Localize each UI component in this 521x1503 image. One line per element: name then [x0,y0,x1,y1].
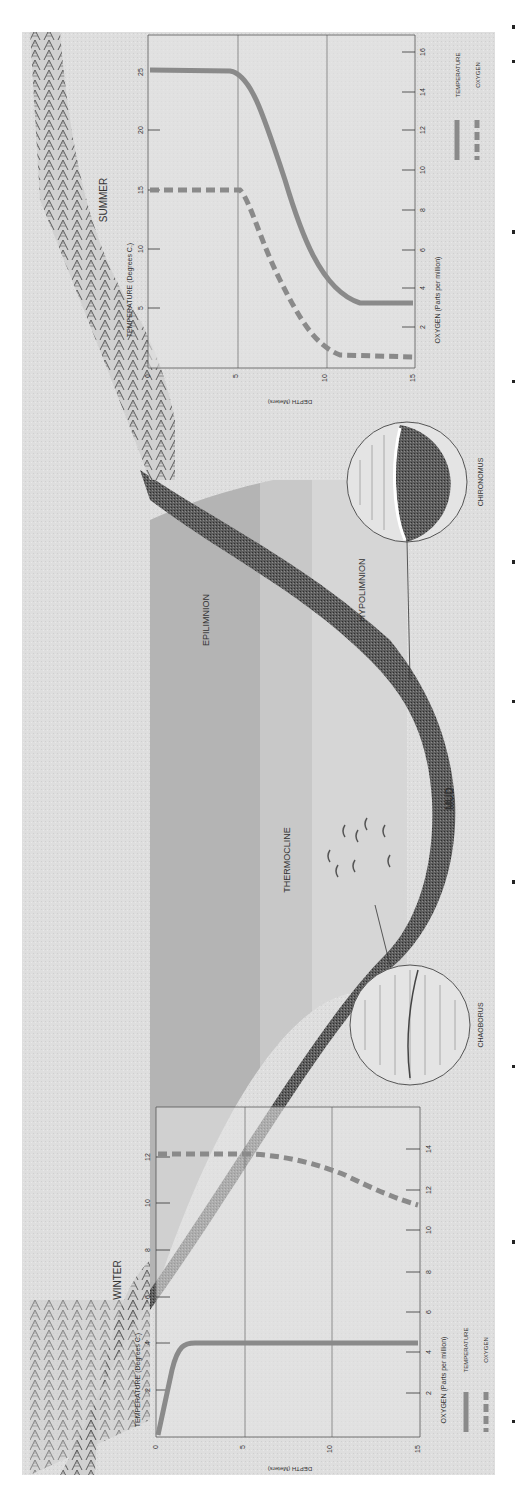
summer-temp-axis-label: TEMPERATURE (Degrees C.) [126,243,134,337]
lake-stratification-figure: MUD EPILIMNION THERMOCLINE HYPOLIMNION C… [0,0,521,1503]
winter-depth-tick: 5 [239,1445,246,1449]
legend-temperature-label: TEMPERATURE [463,1328,469,1373]
summer-temp-tick: 5 [137,306,144,310]
winter-depth-axis-label: DEPTH (Meters) [268,1466,312,1472]
winter-temp-tick: 8 [144,1248,151,1252]
winter-depth-tick: 0 [152,1445,159,1449]
summer-temp-tick: 10 [137,245,144,253]
label-epilimnion: EPILIMNION [201,594,211,646]
summer-oxy-tick: 2 [419,325,426,329]
winter-temp-tick: 10 [144,1199,151,1207]
winter-temp-tick: 2 [144,1388,151,1392]
winter-depth-tick: 10 [326,1445,333,1453]
winter-temp-tick: 4 [144,1341,151,1345]
summer-depth-axis-label: DEPTH (Meters) [268,399,312,405]
legend-oxygen-label: OXYGEN [475,62,481,88]
winter-oxy-tick: 12 [425,1186,432,1194]
summer-title: SUMMER [98,178,109,222]
label-chaoborus: CHAOBORUS [477,1002,484,1047]
summer-oxy-tick: 14 [419,88,426,96]
winter-chart [156,1107,420,1437]
summer-depth-tick: 5 [232,374,239,378]
winter-temp-axis-label: TEMPERATURE (Degrees C.) [134,1333,142,1427]
clipped-caption-fragments [512,25,515,1423]
legend-oxygen-label: OXYGEN [483,1337,489,1363]
label-chironomus: CHIRONOMUS [477,457,484,506]
label-thermocline: THERMOCLINE [282,827,292,893]
summer-depth-tick: 15 [409,374,416,382]
winter-oxy-tick: 10 [425,1226,432,1234]
summer-oxy-tick: 16 [419,48,426,56]
winter-title: WINTER [112,1260,123,1299]
winter-oxy-axis-label: OXYGEN (Parts per million) [440,1337,448,1424]
summer-chart [148,35,415,368]
winter-oxy-tick: 2 [425,1391,432,1395]
summer-oxy-tick: 6 [419,248,426,252]
winter-oxy-tick: 6 [425,1310,432,1314]
winter-temp-tick: 6 [144,1295,151,1299]
summer-temp-tick: 15 [137,186,144,194]
summer-oxy-tick: 12 [419,126,426,134]
winter-oxy-tick: 14 [425,1145,432,1153]
summer-depth-tick: 0 [144,374,151,378]
label-hypolimnion: HYPOLIMNION [357,558,367,621]
winter-temp-tick: 12 [144,1153,151,1161]
legend-temperature-label: TEMPERATURE [455,53,461,98]
summer-temp-tick: 25 [137,68,144,76]
summer-temp-tick: 20 [137,126,144,134]
winter-depth-tick: 15 [414,1445,421,1453]
summer-oxy-tick: 8 [419,208,426,212]
winter-oxy-tick: 8 [425,1270,432,1274]
summer-oxy-axis-label: OXYGEN (Parts per million) [434,257,442,344]
winter-oxy-tick: 4 [425,1350,432,1354]
label-mud: MUD [444,787,455,810]
summer-depth-tick: 10 [321,374,328,382]
summer-oxy-tick: 4 [419,286,426,290]
summer-oxy-tick: 10 [419,166,426,174]
